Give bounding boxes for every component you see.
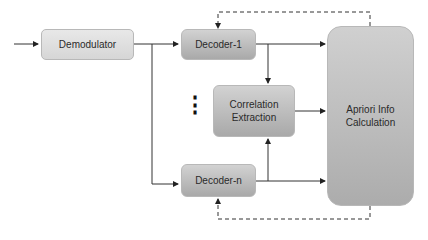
correlation-extraction-block: Correlation Extraction <box>213 85 295 137</box>
demod-to-decodern-arrow <box>152 44 178 184</box>
demodulator-label: Demodulator <box>59 38 116 51</box>
apriori-label-line2: Calculation <box>346 116 395 129</box>
apriori-label-line1: Apriori Info <box>346 103 394 116</box>
demodulator-block: Demodulator <box>41 29 134 60</box>
decoder-n-block: Decoder-n <box>181 164 256 197</box>
apriori-info-calculation-block: Apriori Info Calculation <box>327 26 414 206</box>
decoder-1-block: Decoder-1 <box>181 29 256 60</box>
correlation-label-line1: Correlation <box>230 98 279 111</box>
correlation-label-line2: Extraction <box>232 111 276 124</box>
vertical-ellipsis: ⋮ <box>184 94 206 116</box>
decoder-n-label: Decoder-n <box>195 174 242 187</box>
decoder-1-label: Decoder-1 <box>195 38 242 51</box>
